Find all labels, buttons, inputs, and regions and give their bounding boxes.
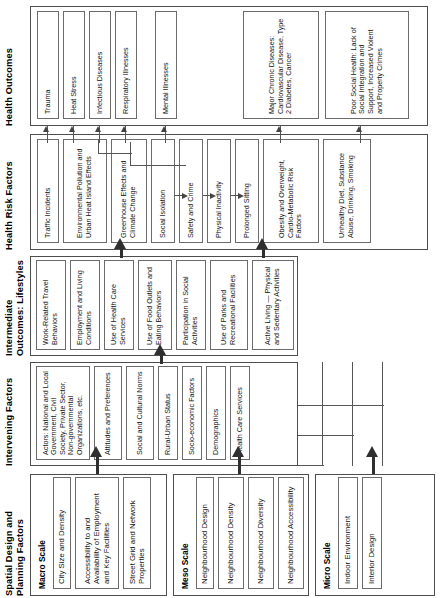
link-arrow-mental [161,126,167,132]
node-trauma[interactable]: Trauma [37,11,59,119]
flow-macro-to-intervening [96,456,99,474]
flow-intermediate-to-risk-1 [120,248,123,258]
flow-meso-to-intervening [238,456,241,474]
node-environmental-pollution-heat-island[interactable]: Environmental Pollution and Urban Heat I… [63,139,107,243]
column-title-health-outcomes: Health Outcomes [4,6,15,126]
crosslink-run-b [98,140,99,154]
node-indoor-environment[interactable]: Indoor Environment [338,477,358,589]
link-arrow-infectious [95,126,101,132]
diagram-canvas: Spatial Design and Planning Factors Macr… [0,0,442,598]
node-major-chronic-diseases[interactable]: Major Chronic Diseases: Cardiovascular D… [243,11,319,119]
node-interior-design[interactable]: Interior Design [362,477,382,589]
link-arrow-poor-social [356,126,362,132]
node-use-of-food-outlets-eating-behaviors[interactable]: Use of Food Outlets and Eating Behaviors [138,260,172,350]
crosslink-run-a [130,142,131,166]
node-neighbourhood-diversity[interactable]: Neighbourhood Diversity [248,477,274,589]
group-health-outcomes: Trauma Heat Stress Infectious Diseases R… [30,6,428,126]
group-intermediate-outcomes: Work-Related Travel Behaviors Employment… [30,256,298,356]
flow-intervening-to-intermediate [160,354,163,364]
feedback-line-3 [382,362,383,466]
node-safety-and-crime[interactable]: Safety and Crime [179,139,203,243]
node-prolonged-sitting[interactable]: Prolonged Sitting [235,139,259,243]
node-obesity-overweight-cardio-metabolic[interactable]: Obesity and Overweight, Cardio-Metabolic… [263,139,319,243]
node-employment-and-living-conditions[interactable]: Employment and Living Conditions [70,260,100,350]
node-respiratory-illnesses[interactable]: Respiratory Illnesses [115,11,137,119]
node-city-size-and-density[interactable]: City Size and Density [53,477,71,589]
crosslink-riser-b [98,153,132,154]
link-arrow-heat-stress [69,126,75,132]
feedback-riser-1 [298,465,324,466]
node-heat-stress[interactable]: Heat Stress [63,11,85,119]
crosslink-riser-a [130,165,186,166]
node-neighbourhood-accessibility[interactable]: Neighbourhood Accessibility [278,477,304,589]
node-actors-government-civil-society[interactable]: Actors: National and Local Government, C… [36,366,90,460]
node-use-of-parks-recreational-facilities[interactable]: Use of Parks and Recreational Facilities [210,260,248,350]
link-arrow-trauma [43,126,49,132]
node-rural-urban-status[interactable]: Rural-Urban Status [158,366,178,460]
node-social-isolation[interactable]: Social Isolation [151,139,175,243]
chain-arrow-isolation-safety [182,193,188,199]
link-arrow-respiratory [121,126,127,132]
scale-label-micro: Micro Scale [322,542,332,589]
column-health-outcomes: Health Outcomes Trauma Heat Stress Infec… [0,0,442,132]
flow-arrow-macro [90,446,102,457]
node-poor-social-health[interactable]: Poor Social Health: Lack of Social Integ… [325,11,409,119]
feedback-riser-2 [298,435,354,436]
node-demographics[interactable]: Demographics [206,366,226,460]
node-neighbourhood-design[interactable]: Neighbourhood Design [196,477,214,589]
column-title-health-risk-factors: Health Risk Factors [4,134,15,250]
node-mental-illnesses[interactable]: Mental Illnesses [155,11,177,119]
node-social-and-cultural-norms[interactable]: Social and Cultural Norms [126,366,154,460]
node-street-grid-network-properties[interactable]: Street Grid and Network Properties [123,477,151,589]
node-socio-economic-factors[interactable]: Socio-economic Factors [182,366,202,460]
group-health-risk-factors: Traffic Incidents Environmental Pollutio… [30,134,428,250]
feedback-riser-3 [298,405,384,406]
chain-arrow-inactivity-sitting [238,193,244,199]
feedback-line-2 [352,362,353,466]
scale-label-meso: Meso Scale [180,543,190,589]
group-meso-scale: Meso Scale Neighbourhood Design Neighbou… [173,474,309,596]
column-intermediate-outcomes: Intermediate Outcomes: Lifestyles Work-R… [0,254,442,360]
node-use-of-health-care-services[interactable]: Use of Health Care Services [104,260,134,350]
group-macro-scale: Macro Scale City Size and Density Access… [30,474,167,596]
scale-label-macro: Macro Scale [37,540,47,589]
node-infectious-diseases[interactable]: Infectious Diseases [89,11,111,119]
flow-arrow-intermediate-2 [256,238,268,249]
node-greenhouse-effects-climate-change[interactable]: Greenhouse Effects and Climate Change [111,139,147,243]
node-work-related-travel-behaviors[interactable]: Work-Related Travel Behaviors [36,260,66,350]
node-accessibility-employment-facilities[interactable]: Accessibility to and Availability of Emp… [75,477,119,589]
column-title-intermediate-outcomes: Intermediate Outcomes: Lifestyles [4,256,26,356]
feedback-line-1 [322,362,323,466]
node-physical-inactivity[interactable]: Physical Inactivity [207,139,231,243]
group-intervening-factors: Actors: National and Local Government, C… [30,362,298,466]
link-arrow-chronic [276,126,282,132]
chain-arrow-safety-inactivity [210,193,216,199]
flow-arrow-intermediate-1 [114,238,126,249]
group-micro-scale: Micro Scale Indoor Environment Interior … [315,474,435,596]
node-traffic-incidents[interactable]: Traffic Incidents [37,139,59,243]
flow-arrow-intervening [154,344,166,355]
column-title-intervening-factors: Intervening Factors [4,362,15,466]
node-neighbourhood-density[interactable]: Neighbourhood Density [218,477,244,589]
flow-intermediate-to-risk-2 [262,248,265,258]
column-spatial-design: Spatial Design and Planning Factors Macr… [0,470,442,598]
node-active-living-physical-sedentary[interactable]: Active Living — Physical and Sedentary A… [252,260,294,350]
flow-arrow-micro [366,446,378,457]
column-title-spatial-design: Spatial Design and Planning Factors [4,472,26,596]
flow-micro-to-intervening [372,456,375,474]
node-unhealthy-diet-substance-abuse[interactable]: Unhealthy Diet, Substance Abuse, Drinkin… [323,139,371,243]
column-health-risk-factors: Health Risk Factors Traffic Incidents En… [0,132,442,254]
flow-arrow-meso [232,446,244,457]
node-participation-in-social-activities[interactable]: Participation in Social Activities [176,260,206,350]
